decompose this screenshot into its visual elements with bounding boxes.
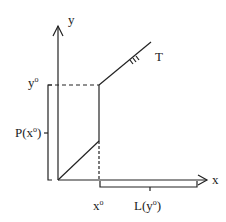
x-axis-label: x bbox=[212, 173, 219, 186]
diagram-svg bbox=[0, 0, 226, 222]
p-bracket-label: P(xo) bbox=[15, 126, 41, 139]
lower-segment bbox=[58, 141, 99, 180]
technology-line-T bbox=[99, 42, 151, 85]
p-bracket bbox=[48, 85, 52, 180]
hash-mark bbox=[133, 58, 136, 62]
curve-label-T: T bbox=[155, 50, 163, 63]
l-bracket-label: L(yo) bbox=[134, 199, 161, 212]
l-bracket bbox=[100, 181, 197, 187]
diagram-canvas: y x T yo xo P(xo) L(yo) bbox=[0, 0, 226, 222]
hash-mark bbox=[136, 56, 139, 60]
x0-label: xo bbox=[93, 199, 104, 212]
y0-label: yo bbox=[28, 76, 39, 89]
hash-mark bbox=[130, 60, 133, 64]
y-axis-label: y bbox=[68, 13, 75, 26]
